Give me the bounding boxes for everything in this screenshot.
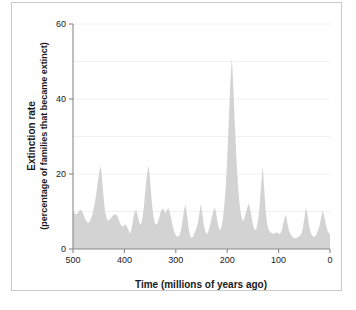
- x-axis-ticks-group: [73, 249, 330, 253]
- y-axis-ticks-group: [69, 24, 73, 249]
- y-tick-label-20: 20: [56, 169, 66, 179]
- y-axis-title-primary: Extinction rate: [26, 101, 37, 171]
- x-tick-label-500: 500: [65, 255, 80, 265]
- x-tick-label-100: 100: [271, 255, 286, 265]
- y-tick-label-40: 40: [56, 94, 66, 104]
- x-tick-label-200: 200: [220, 255, 235, 265]
- x-tick-label-0: 0: [327, 255, 332, 265]
- y-tick-label-0: 0: [61, 244, 66, 254]
- x-axis-title: Time (millions of years ago): [135, 279, 267, 290]
- extinction-rate-area-chart: 0204060 5004003002001000 Time (millions …: [0, 0, 356, 310]
- x-tick-label-300: 300: [168, 255, 183, 265]
- y-axis-tick-labels: 0204060: [56, 19, 66, 254]
- y-tick-label-60: 60: [56, 19, 66, 29]
- x-axis-tick-labels: 5004003002001000: [65, 255, 332, 265]
- y-axis-title-secondary: (percentage of families that became exti…: [39, 42, 49, 230]
- figure-root: 0204060 5004003002001000 Time (millions …: [0, 0, 356, 310]
- x-tick-label-400: 400: [117, 255, 132, 265]
